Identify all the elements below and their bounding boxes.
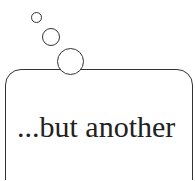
thought-bubble-text: ...but another suggestion is a good idea… — [17, 78, 195, 180]
text-line-2: suggestion is a — [17, 176, 195, 181]
thought-bubble-large-circle — [57, 48, 84, 75]
thought-bubble-small-circle — [31, 12, 42, 23]
thought-bubble-medium-circle — [42, 28, 60, 46]
text-line-1: ...but another — [17, 111, 195, 144]
